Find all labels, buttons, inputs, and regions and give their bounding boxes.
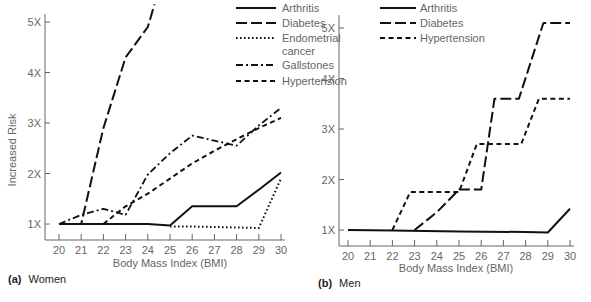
panel-name: Men bbox=[339, 277, 360, 289]
x-tick-label: 27 bbox=[497, 250, 509, 262]
legend-label: Hypertension bbox=[420, 32, 485, 44]
x-tick-label: 21 bbox=[364, 250, 376, 262]
x-tick-label: 22 bbox=[386, 250, 398, 262]
panel-tag: (b) bbox=[318, 277, 332, 289]
legend-label: Gallstones bbox=[282, 59, 334, 71]
x-tick-label: 25 bbox=[453, 250, 465, 262]
y-tick-label: 5X bbox=[322, 22, 336, 34]
x-tick-label: 27 bbox=[208, 244, 220, 256]
y-tick-label: 1X bbox=[28, 218, 42, 230]
x-tick-label: 20 bbox=[53, 244, 65, 256]
y-tick-label: 1X bbox=[322, 224, 336, 236]
x-axis: 2021222324252627282930 bbox=[45, 234, 287, 256]
series-line bbox=[392, 99, 570, 230]
panel-label-women: (a) Women bbox=[8, 273, 66, 285]
series-line bbox=[415, 23, 570, 230]
panel-tag: (a) bbox=[8, 273, 22, 285]
legend: ArthritisDiabetesHypertension bbox=[380, 2, 485, 44]
y-tick-label: 3X bbox=[322, 123, 336, 135]
y-tick-label: 4X bbox=[28, 67, 42, 79]
y-tick-label: 3X bbox=[28, 117, 42, 129]
x-tick-label: 22 bbox=[97, 244, 109, 256]
y-axis: 1X2X3X4X5X bbox=[28, 14, 50, 240]
y-axis: 1X2X3X4X5X bbox=[322, 15, 344, 246]
x-tick-label: 26 bbox=[475, 250, 487, 262]
legend-label: Endometrialcancer bbox=[282, 32, 341, 57]
legend-label: Arthritis bbox=[420, 2, 458, 14]
y-tick-label: 2X bbox=[322, 174, 336, 186]
x-tick-label: 29 bbox=[253, 244, 265, 256]
x-tick-label: 28 bbox=[519, 250, 531, 262]
x-tick-label: 29 bbox=[542, 250, 554, 262]
series-line bbox=[59, 4, 155, 224]
legend-label: Diabetes bbox=[282, 17, 326, 29]
y-tick-label: 2X bbox=[28, 168, 42, 180]
legend-label: Hypertension bbox=[282, 75, 347, 87]
panel-label-men: (b) Men bbox=[318, 277, 361, 289]
x-tick-label: 21 bbox=[75, 244, 87, 256]
x-axis: 2021222324252627282930 bbox=[339, 240, 576, 262]
y-axis-title: Increased Risk bbox=[6, 113, 18, 186]
plot-lines bbox=[348, 23, 570, 233]
x-tick-label: 28 bbox=[230, 244, 242, 256]
x-tick-label: 23 bbox=[408, 250, 420, 262]
plot-lines bbox=[59, 4, 281, 228]
y-tick-label: 5X bbox=[28, 16, 42, 28]
x-tick-label: 23 bbox=[119, 244, 131, 256]
x-tick-label: 25 bbox=[164, 244, 176, 256]
x-axis-title: Body Mass Index (BMI) bbox=[113, 257, 227, 269]
y-tick-label: 4X bbox=[322, 73, 336, 85]
x-axis-title: Body Mass Index (BMI) bbox=[399, 262, 513, 274]
legend-label: Arthritis bbox=[282, 2, 320, 14]
men-chart-panel: 1X2X3X4X5X 2021222324252627282930 Arthri… bbox=[318, 2, 576, 289]
x-tick-label: 20 bbox=[342, 250, 354, 262]
x-tick-label: 26 bbox=[186, 244, 198, 256]
legend-label: Diabetes bbox=[420, 17, 464, 29]
x-tick-label: 30 bbox=[275, 244, 287, 256]
x-tick-label: 24 bbox=[431, 250, 443, 262]
series-line bbox=[59, 108, 281, 224]
x-tick-label: 24 bbox=[142, 244, 154, 256]
women-chart-panel: 1X2X3X4X5X 2021222324252627282930 Arthri… bbox=[6, 2, 347, 285]
x-tick-label: 30 bbox=[564, 250, 576, 262]
panel-name: Women bbox=[29, 273, 67, 285]
chart-figure: 1X2X3X4X5X 2021222324252627282930 Arthri… bbox=[0, 0, 591, 302]
series-line bbox=[348, 209, 570, 233]
